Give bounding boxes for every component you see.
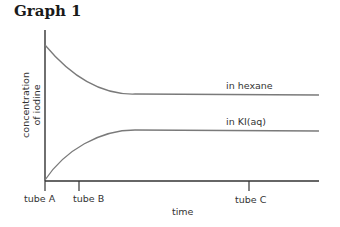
x-axis-label: time xyxy=(172,206,194,217)
series-hexane-line xyxy=(45,45,319,95)
series-ki-label: in KI(aq) xyxy=(226,116,266,127)
series-hexane-label: in hexane xyxy=(226,80,273,91)
series-ki-line xyxy=(45,130,319,180)
chart-plot: in hexane in KI(aq) tube A tube B tube C… xyxy=(0,0,340,227)
tick-label-tube-c: tube C xyxy=(235,194,267,205)
tick-label-tube-a: tube A xyxy=(24,193,56,204)
tick-label-tube-b: tube B xyxy=(73,193,104,204)
y-axis-label: concentration of iodine xyxy=(20,72,42,138)
y-axis-label-line2: of iodine xyxy=(31,84,42,125)
y-axis-label-line1: concentration xyxy=(20,72,31,138)
